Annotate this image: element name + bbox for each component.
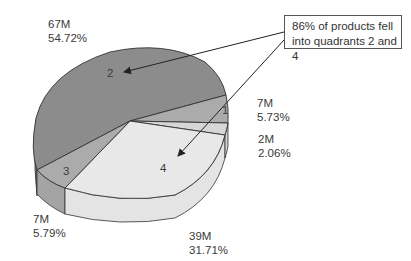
- slice-3-value-label: 7M 5.79%: [33, 212, 66, 240]
- slice-3-value: 7M: [33, 212, 66, 226]
- slice-2-value: 67M: [48, 17, 87, 31]
- slice-2-percent: 54.72%: [48, 31, 87, 45]
- slice-1-number: 1: [222, 103, 228, 117]
- callout-line-1: 86% of products fell: [292, 19, 401, 34]
- slice-small-value-label: 2M 2.06%: [258, 132, 291, 160]
- slice-4-value: 39M: [189, 229, 228, 243]
- slice-small-percent: 2.06%: [258, 146, 291, 160]
- slice-2-value-label: 67M 54.72%: [48, 17, 87, 45]
- slice-1-value-label: 7M 5.73%: [257, 96, 290, 124]
- slice-4-number: 4: [160, 161, 166, 175]
- slice-1-value: 7M: [257, 96, 290, 110]
- slice-3-number: 3: [63, 164, 69, 178]
- slice-1-percent: 5.73%: [257, 110, 290, 124]
- annotation-callout: 86% of products fell into quadrants 2 an…: [284, 15, 402, 49]
- callout-line-2: into quadrants 2 and 4: [292, 34, 401, 64]
- slice-2-number: 2: [107, 66, 113, 80]
- slice-4-percent: 31.71%: [189, 243, 228, 257]
- slice-small-value: 2M: [258, 132, 291, 146]
- slice-3-percent: 5.79%: [33, 226, 66, 240]
- slice-4-value-label: 39M 31.71%: [189, 229, 228, 257]
